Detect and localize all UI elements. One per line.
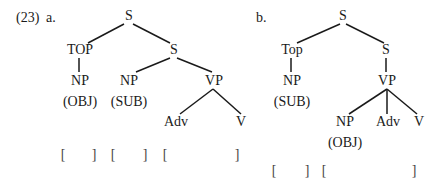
edge-a-s-s xyxy=(133,24,170,43)
tree-a-node-np-sub-role: (SUB) xyxy=(111,94,148,110)
edge-a-s-np xyxy=(136,58,170,72)
tree-a-bracket-close-2: ] xyxy=(143,147,148,163)
tree-a-node-v: V xyxy=(236,114,246,130)
tree-b-node-vp: VP xyxy=(378,73,396,89)
tree-b-node-np-obj-role: (OBJ) xyxy=(328,135,362,151)
tree-a-node-np-top-role: (OBJ) xyxy=(63,94,97,110)
tree-b-node-adv: Adv xyxy=(376,114,400,130)
tree-b-node-np-obj: NP xyxy=(336,114,354,130)
tree-a-node-vp: VP xyxy=(205,73,223,89)
tree-a-bracket-close-1: ] xyxy=(92,147,97,163)
edge-a-vp-adv xyxy=(180,89,213,114)
tree-a-node-s: S xyxy=(170,42,178,58)
tree-b-node-np-top: NP xyxy=(283,73,301,89)
tree-a-node-np-sub: NP xyxy=(120,73,138,89)
tree-a-node-adv: Adv xyxy=(164,114,188,130)
edge-a-vp-v xyxy=(213,89,241,114)
tree-b-bracket-open-2: [ xyxy=(322,163,327,179)
tree-b-bracket-close-1: ] xyxy=(305,163,310,179)
edge-b-vp-v xyxy=(387,89,417,114)
tree-a-bracket-close-3: ] xyxy=(235,147,240,163)
tree-a-node-np-top: NP xyxy=(71,73,89,89)
tree-a-bracket-open-2: [ xyxy=(111,147,116,163)
tree-b-node-v: V xyxy=(414,114,424,130)
tree-a-label: a. xyxy=(46,10,56,26)
edge-a-s-top xyxy=(88,24,124,43)
tree-a-node-s-root: S xyxy=(125,8,133,24)
tree-b-node-s-root: S xyxy=(339,8,347,24)
tree-b-node-s: S xyxy=(382,42,390,58)
tree-a-bracket-open-1: [ xyxy=(61,147,66,163)
tree-a-node-top: TOP xyxy=(67,42,93,58)
edge-b-s-top xyxy=(297,24,340,43)
tree-b-bracket-close-2: ] xyxy=(412,163,417,179)
tree-b-node-top: Top xyxy=(281,42,303,58)
tree-b-label: b. xyxy=(256,10,267,26)
tree-b-node-np-top-role: (SUB) xyxy=(274,94,311,110)
edge-a-s-vp xyxy=(177,58,212,72)
edge-b-s-s xyxy=(346,24,384,43)
edge-b-vp-np xyxy=(349,89,387,114)
tree-b-bracket-open-1: [ xyxy=(272,163,277,179)
example-number: (23) xyxy=(16,10,39,26)
tree-a-bracket-open-3: [ xyxy=(163,147,168,163)
